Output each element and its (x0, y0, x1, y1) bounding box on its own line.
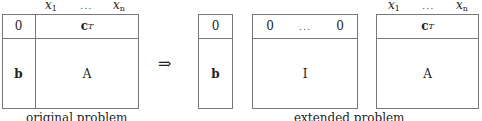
original-caption: original problem (26, 111, 128, 121)
original-header-dots: ... (80, 0, 93, 11)
original-cell-b: b (2, 38, 35, 109)
extended-identity-I: I (252, 38, 358, 109)
extended-matrix-cost-vector: cT (376, 14, 479, 38)
extended-header-x1: x1 (388, 0, 400, 13)
original-cell-A: A (35, 38, 139, 109)
extended-identity-top-last: 0 (332, 14, 348, 38)
extended-identity-top-dots: ... (290, 14, 320, 38)
original-cell-cost-vector: cT (35, 14, 139, 38)
extended-caption: extended problem (294, 111, 404, 121)
extended-matrix-A: A (376, 38, 479, 109)
implies-arrow-icon: ⇒ (158, 54, 171, 73)
extended-header-xn: xn (456, 0, 468, 13)
extended-rhs-b: b (198, 38, 233, 109)
original-header-xn: xn (113, 0, 125, 13)
original-header-x1: x1 (45, 0, 57, 13)
extended-header-dots: ... (422, 0, 435, 11)
original-cell-zero: 0 (2, 14, 35, 38)
extended-identity-top-first: 0 (262, 14, 278, 38)
extended-rhs-zero: 0 (198, 14, 233, 38)
